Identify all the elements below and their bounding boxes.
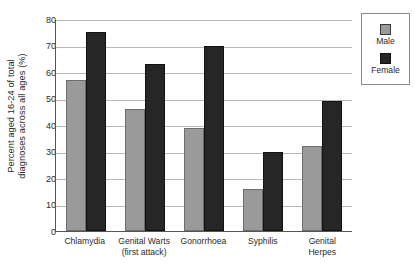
x-axis-tick-labels: ChlamydiaGenital Warts(first attack)Gono… (55, 236, 352, 257)
bar-group (66, 20, 106, 231)
bar-groups (56, 20, 352, 231)
y-axis-tick-label: 60 (32, 69, 56, 78)
y-axis-title-line-2: diagnoses across all ages (%) (17, 53, 29, 178)
bar-group (125, 20, 165, 231)
chart-legend: Male Female (361, 13, 410, 85)
bar-female[interactable] (145, 64, 165, 231)
x-axis-tick-label-line: (first attack) (115, 247, 173, 258)
x-axis-tick-label-line: Herpes (293, 247, 351, 258)
bar-group (243, 20, 283, 231)
bar-female[interactable] (263, 152, 283, 232)
x-axis-tick-label-line: Genital (293, 236, 351, 247)
legend-swatch-female-icon (380, 53, 391, 64)
legend-item-female: Female (371, 53, 400, 75)
x-axis-tick-label: GenitalHerpes (293, 236, 351, 257)
y-axis-tick-label: 0 (32, 228, 56, 237)
bar-female[interactable] (322, 101, 342, 231)
x-axis-tick-label: Syphilis (234, 236, 292, 257)
y-axis-title-line-1: Percent aged 16-24 of total (6, 59, 18, 173)
bar-male[interactable] (125, 109, 145, 231)
legend-label-male: Male (376, 37, 395, 46)
y-axis-tick-label: 10 (32, 201, 56, 210)
y-axis-tick-label: 70 (32, 42, 56, 51)
bar-female[interactable] (86, 32, 106, 231)
bar-male[interactable] (243, 189, 263, 231)
legend-item-male: Male (376, 24, 395, 46)
y-axis-tick-label: 40 (32, 122, 56, 131)
plot-area (55, 20, 352, 232)
legend-swatch-male-icon (380, 24, 391, 35)
x-axis-tick-label-line: Genital Warts (115, 236, 173, 247)
legend-label-female: Female (371, 66, 400, 75)
x-axis-tick-label: Gonorrhoea (174, 236, 232, 257)
bar-group (302, 20, 342, 231)
y-axis-title: Percent aged 16-24 of total diagnoses ac… (2, 0, 32, 232)
x-axis-tick-label-line: Syphilis (234, 236, 292, 247)
bar-male[interactable] (66, 80, 86, 231)
x-axis-tick-label-line: Chlamydia (56, 236, 114, 247)
y-axis-tick-label: 20 (32, 175, 56, 184)
bar-female[interactable] (204, 46, 224, 232)
bar-group (184, 20, 224, 231)
bar-male[interactable] (302, 146, 322, 231)
y-axis-tick-label: 30 (32, 148, 56, 157)
x-axis-tick-label: Genital Warts(first attack) (115, 236, 173, 257)
x-axis-tick-label: Chlamydia (56, 236, 114, 257)
x-axis-tick-label-line: Gonorrhoea (174, 236, 232, 247)
bar-male[interactable] (184, 128, 204, 231)
y-axis-tick-label: 50 (32, 95, 56, 104)
y-axis-tick-label: 80 (32, 16, 56, 25)
